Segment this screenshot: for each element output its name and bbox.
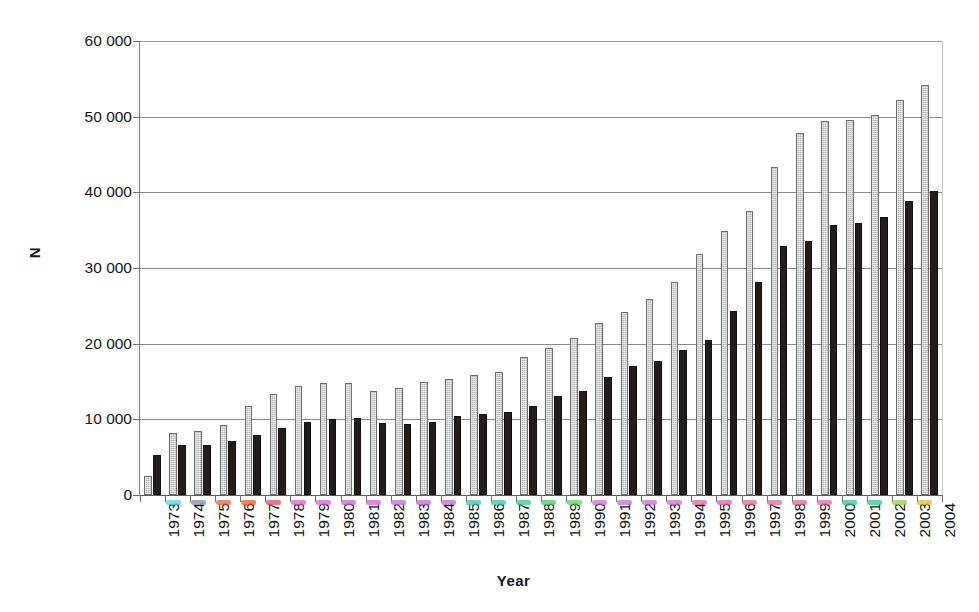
bar-chart: N 010 00020 00030 00040 00050 00060 000 … (0, 0, 979, 612)
bar-group (867, 41, 892, 495)
bar-group (917, 41, 942, 495)
bar-black (479, 414, 487, 495)
bar-gray (771, 167, 779, 495)
y-tick-mark (133, 41, 140, 42)
bar-group (616, 41, 641, 495)
x-tick-label: 1990 (589, 502, 611, 568)
bar-black (178, 445, 186, 495)
bar-group (767, 41, 792, 495)
x-tick-label: 2002 (889, 502, 911, 568)
y-tick-mark (133, 192, 140, 193)
bar-group (792, 41, 817, 495)
x-tick-label: 2001 (864, 502, 886, 568)
bar-black (654, 361, 662, 495)
x-tick-label: 1987 (513, 502, 535, 568)
bar-gray (270, 394, 278, 495)
bar-black (805, 241, 813, 495)
x-tick-label: 1993 (664, 502, 686, 568)
bar-gray (345, 383, 353, 495)
bar-black (679, 350, 687, 495)
x-tick-label: 1975 (213, 502, 235, 568)
x-tick-label: 1982 (388, 502, 410, 568)
bar-black (930, 191, 938, 495)
bar-gray (320, 383, 328, 495)
bar-gray (295, 386, 303, 495)
x-tick-label: 2003 (914, 502, 936, 568)
y-tick-mark (133, 268, 140, 269)
bar-group (591, 41, 616, 495)
x-axis-title: Year (0, 572, 979, 589)
bar-gray (194, 431, 202, 495)
x-tick-label: 1985 (463, 502, 485, 568)
bar-black (228, 441, 236, 495)
bar-gray (846, 120, 854, 495)
bar-black (354, 418, 362, 495)
bar-black (705, 340, 713, 495)
bar-gray (671, 282, 679, 495)
bar-group (441, 41, 466, 495)
bar-black (629, 366, 637, 495)
y-tick-label: 30 000 (14, 259, 132, 277)
bar-black (529, 406, 537, 495)
bar-gray (921, 85, 929, 495)
bar-black (203, 445, 211, 495)
x-tick-label: 1988 (538, 502, 560, 568)
x-tick-label: 2000 (839, 502, 861, 568)
bar-group (641, 41, 666, 495)
bar-gray (445, 379, 453, 495)
bar-gray (871, 115, 879, 495)
bar-black (855, 223, 863, 495)
bar-group (817, 41, 842, 495)
y-tick-label: 0 (14, 486, 132, 504)
bar-group (516, 41, 541, 495)
bar-group (566, 41, 591, 495)
x-tick-label: 2004 (939, 502, 961, 568)
x-tick-label: 1998 (789, 502, 811, 568)
bar-gray (545, 348, 553, 495)
y-tick-label: 40 000 (14, 183, 132, 201)
bar-gray (520, 357, 528, 495)
bar-black (329, 419, 337, 495)
bar-black (278, 428, 286, 495)
bar-group (666, 41, 691, 495)
bar-black (880, 217, 888, 495)
bar-gray (370, 391, 378, 495)
bar-black (755, 282, 763, 495)
x-tick-label: 1983 (413, 502, 435, 568)
bar-group (140, 41, 165, 495)
y-tick-label: 60 000 (14, 32, 132, 50)
bar-gray (796, 133, 804, 495)
bar-group (240, 41, 265, 495)
x-tick-label: 1973 (163, 502, 185, 568)
y-tick-mark (133, 344, 140, 345)
bar-group (265, 41, 290, 495)
x-tick-mark (140, 495, 141, 502)
bar-black (730, 311, 738, 495)
bar-gray (470, 375, 478, 495)
bar-group (691, 41, 716, 495)
bar-gray (646, 299, 654, 495)
bar-gray (495, 372, 503, 495)
x-tick-label: 1989 (564, 502, 586, 568)
x-axis-tick-labels: 1973197419751976197719781979198019811982… (139, 502, 941, 568)
x-tick-label: 1994 (689, 502, 711, 568)
bar-black (780, 246, 788, 495)
bar-black (153, 455, 161, 495)
bar-gray (395, 388, 403, 495)
bar-group (491, 41, 516, 495)
x-tick-label: 1995 (714, 502, 736, 568)
bar-black (454, 416, 462, 495)
bar-black (429, 422, 437, 495)
bar-black (379, 423, 387, 495)
bar-black (604, 377, 612, 495)
bar-gray (169, 433, 177, 495)
bar-group (541, 41, 566, 495)
y-axis-tick-labels: 010 00020 00030 00040 00050 00060 000 (8, 41, 132, 495)
bar-gray (144, 476, 152, 495)
bar-gray (746, 211, 754, 495)
x-tick-label: 1997 (764, 502, 786, 568)
bar-group (391, 41, 416, 495)
bar-black (253, 435, 261, 495)
bar-gray (220, 425, 228, 495)
bar-black (554, 396, 562, 495)
